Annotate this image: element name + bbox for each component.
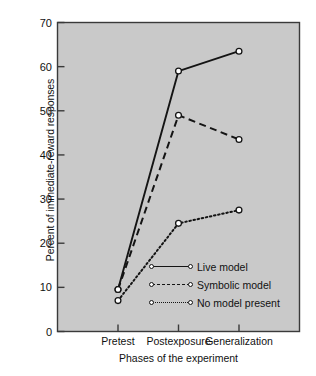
- legend-marker-icon: [188, 282, 193, 287]
- line-chart-figure: 010203040506070 PretestPostexposureGener…: [0, 0, 316, 376]
- legend-label: Live model: [193, 261, 248, 273]
- legend-line-icon: [152, 284, 190, 285]
- x-tick-label: Generalization: [205, 335, 273, 347]
- legend-label: No model present: [193, 297, 280, 309]
- legend-item: No model present: [149, 294, 294, 312]
- legend-item: Live model: [149, 258, 294, 276]
- legend-marker-icon: [149, 300, 154, 305]
- legend-line-swatch: [149, 261, 193, 273]
- legend-label: Symbolic model: [193, 279, 271, 291]
- legend-marker-icon: [149, 264, 154, 269]
- chart-legend: Live modelSymbolic modelNo model present: [149, 258, 294, 312]
- legend-marker-icon: [188, 300, 193, 305]
- x-tick-label: Pretest: [101, 335, 134, 347]
- x-tick-label: Postexposure: [146, 335, 210, 347]
- legend-line-swatch: [149, 297, 193, 309]
- y-axis-title: Percent of immediate-reward responses: [44, 25, 56, 315]
- legend-marker-icon: [149, 282, 154, 287]
- x-axis-title: Phases of the experiment: [57, 352, 300, 364]
- legend-marker-icon: [188, 264, 193, 269]
- legend-line-swatch: [149, 279, 193, 291]
- legend-line-icon: [152, 266, 190, 267]
- legend-line-icon: [152, 302, 190, 303]
- legend-item: Symbolic model: [149, 276, 294, 294]
